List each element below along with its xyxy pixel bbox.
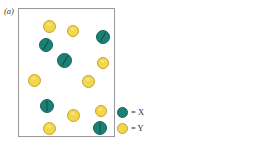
particle-distribution-figure: (a) (b) = X = Y	[0, 0, 259, 148]
yellow-circle-icon	[117, 123, 128, 134]
particle-y	[67, 25, 79, 37]
particle-y	[82, 75, 95, 88]
particle-x	[93, 121, 107, 135]
legend-entry-y: = Y	[117, 121, 144, 135]
legend: = X = Y	[117, 104, 159, 138]
panel-a-container	[18, 8, 115, 137]
particle-y	[43, 20, 56, 33]
panel-a: (a)	[0, 0, 129, 148]
particle-y	[67, 109, 80, 122]
teal-circle-icon	[117, 107, 128, 118]
legend-entry-x: = X	[117, 105, 144, 119]
particle-x	[40, 99, 54, 113]
particle-y	[28, 74, 41, 87]
particle-y	[95, 105, 107, 117]
particle-y	[97, 57, 109, 69]
particle-x	[96, 30, 110, 44]
particle-x	[57, 53, 72, 68]
panel-a-label: (a)	[4, 6, 14, 16]
particle-x	[39, 38, 53, 52]
legend-label-y: = Y	[131, 123, 144, 134]
legend-label-x: = X	[131, 107, 144, 118]
particle-y	[43, 122, 56, 135]
